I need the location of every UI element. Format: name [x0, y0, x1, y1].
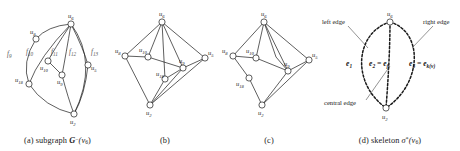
subfigure-c: u6 u8 u10 u18 u9 u5 u2 (c): [216, 0, 322, 151]
vertex-u2: [71, 111, 77, 117]
annotation-central-edge: central edge: [324, 99, 356, 106]
label-vertex-u8: u8: [115, 47, 121, 56]
label-vertex-u2: u2: [258, 109, 264, 118]
edge-u8-u18: [26, 39, 36, 84]
edge-u10-u9: [148, 57, 183, 68]
edge-u6-u2-outer: [71, 24, 86, 114]
vertex-u18: [246, 75, 252, 81]
vertex-u9: [180, 65, 186, 71]
caption-d-word: skeleton: [371, 136, 399, 145]
caption-a-arg-end: ): [88, 136, 91, 145]
vertex-u2: [147, 102, 153, 108]
vertex-u2: [383, 105, 389, 111]
label-vertex-u9: u9: [179, 57, 185, 66]
label-vertex-u2: u2: [70, 118, 76, 127]
graph-a-canvas: u6 u8 u10 u9 u5 u18 u2 f9 f10 f11 f12 f1…: [0, 0, 115, 130]
edge-u8-u10: [233, 56, 256, 58]
label-vertex-u8: u8: [222, 47, 228, 56]
caption-d-arg-end: ): [418, 136, 421, 145]
subfigure-b: u6 u8 u10 u18 u9 u5 u2 (b): [112, 0, 218, 151]
leader-central-edge: [366, 66, 390, 100]
label-vertex-u5: u5: [312, 51, 318, 60]
edge-u9-u2: [262, 71, 288, 105]
caption-b: (b): [112, 136, 218, 145]
vertex-u6: [387, 19, 393, 25]
edge-u9-u2: [150, 68, 183, 105]
edge-u6-u18: [162, 22, 165, 79]
label-vertex-u6: u6: [159, 10, 165, 19]
edge-u6-u10: [148, 22, 162, 57]
label-vertex-u9: u9: [57, 78, 63, 87]
annotation-right-edge: right edge: [423, 18, 450, 25]
label-vertex-u18: u18: [15, 76, 24, 85]
label-vertex-u18: u18: [236, 80, 245, 89]
label-vertex-u2: u2: [382, 113, 388, 122]
edge-u6-u10: [256, 22, 264, 58]
label-vertex-u5: u5: [208, 49, 214, 58]
edge-u8-u2: [125, 56, 150, 105]
label-face-f13: f13: [91, 48, 99, 57]
label-edge-e2: e2 = ef: [369, 59, 390, 69]
subfigure-d: u6 u2 left edge right edge central edge …: [320, 0, 460, 151]
caption-c-prefix: (c): [264, 136, 274, 145]
vertex-u10: [145, 54, 151, 60]
vertex-u10: [253, 55, 259, 61]
vertex-u18: [26, 81, 32, 87]
label-face-f10: f10: [26, 48, 34, 57]
caption-d-prefix: (d): [359, 136, 369, 145]
skeleton-d-edge-labels: e1 e2 = ef e3 = ek(v): [346, 59, 435, 70]
edge-u5-u2: [150, 58, 205, 105]
label-vertex-u6: u6: [387, 10, 393, 19]
edge-u18-u2: [29, 84, 74, 114]
vertex-u10: [45, 58, 51, 64]
edge-u9-u2: [62, 75, 74, 114]
vertex-u8: [122, 53, 128, 59]
caption-b-prefix: (b): [160, 136, 170, 145]
vertex-u6: [261, 19, 267, 25]
label-vertex-u10: u10: [139, 46, 148, 55]
label-face-f9: f9: [7, 50, 12, 59]
label-vertex-u18: u18: [156, 70, 165, 79]
caption-a-word: subgraph: [36, 136, 67, 145]
graph-b-vertices: [122, 19, 208, 108]
skeleton-d-canvas: u6 u2 left edge right edge central edge …: [320, 0, 460, 130]
vertex-u8: [230, 53, 236, 59]
label-vertex-u8: u8: [30, 28, 36, 37]
label-vertex-u10: u10: [40, 64, 49, 73]
edge-u18-u2: [150, 79, 165, 105]
label-vertex-u10: u10: [246, 47, 255, 56]
leader-left-edge: [348, 26, 368, 48]
subfigure-a: u6 u8 u10 u9 u5 u18 u2 f9 f10 f11 f12 f1…: [0, 0, 115, 151]
edge-u6-u5: [162, 22, 205, 58]
figure-panel-group: u6 u8 u10 u9 u5 u18 u2 f9 f10 f11 f12 f1…: [0, 0, 460, 151]
graph-b-edges: [125, 22, 205, 105]
edge-u18-u2: [249, 78, 262, 105]
edge-u9-u5: [183, 58, 205, 68]
caption-d: (d) skeleton σ*(v6): [320, 136, 460, 145]
vertex-u2: [259, 102, 265, 108]
label-vertex-u6: u6: [261, 10, 267, 19]
edge-u9-u5: [288, 60, 309, 71]
annotation-left-edge: left edge: [322, 18, 345, 25]
vertex-u6: [68, 21, 74, 27]
caption-a-prefix: (a): [24, 136, 34, 145]
label-face-f12: f12: [69, 48, 77, 57]
label-edge-e1: e1: [346, 59, 352, 69]
edge-u8-u18: [233, 56, 249, 78]
caption-c: (c): [216, 136, 322, 145]
leader-right-edge: [412, 26, 433, 48]
graph-c-edges: [233, 22, 309, 105]
graph-b-canvas: u6 u8 u10 u18 u9 u5 u2: [112, 0, 218, 130]
graph-b-vertex-labels: u6 u8 u10 u18 u9 u5 u2: [115, 10, 214, 118]
vertex-u9: [285, 68, 291, 74]
caption-a: (a) subgraph G−(v6): [0, 136, 115, 145]
graph-c-vertices: [230, 19, 312, 108]
label-vertex-u6: u6: [68, 12, 74, 21]
vertex-u6: [159, 19, 165, 25]
vertex-u8: [33, 36, 39, 42]
label-vertex-u5: u5: [91, 64, 97, 73]
label-vertex-u2: u2: [146, 109, 152, 118]
graph-c-canvas: u6 u8 u10 u18 u9 u5 u2: [216, 0, 322, 130]
label-edge-e3: e3 = ek(v): [409, 59, 435, 70]
edge-u8-u10: [125, 56, 148, 57]
